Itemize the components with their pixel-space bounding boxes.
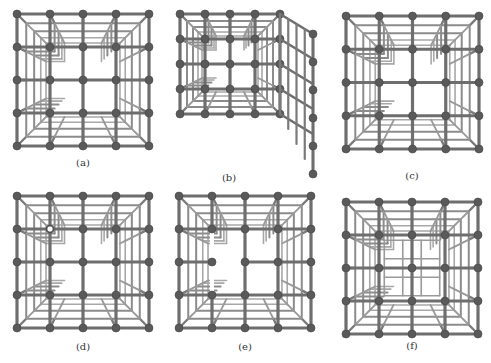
panel-b: (b): [165, 0, 330, 182]
lattice-a: [0, 0, 165, 182]
lattice-f: [326, 182, 491, 363]
lattice-d: [0, 182, 165, 363]
panel-c: (c): [326, 0, 491, 182]
caption-f: (f): [392, 340, 432, 351]
panel-a: (a): [0, 0, 165, 182]
caption-c: (c): [392, 170, 432, 181]
caption-e: (e): [225, 341, 265, 352]
caption-d: (d): [63, 341, 103, 352]
panel-d: (d): [0, 182, 165, 363]
panel-f: (f): [326, 182, 491, 363]
panel-e: (e): [165, 182, 330, 363]
caption-a: (a): [63, 157, 103, 168]
lattice-b: [165, 0, 330, 182]
lattice-c: [326, 0, 491, 182]
lattice-e: [165, 182, 330, 363]
